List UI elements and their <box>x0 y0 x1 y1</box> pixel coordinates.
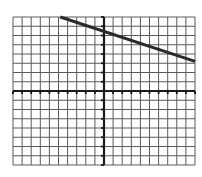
coordinate-plane <box>0 0 202 177</box>
plotted-line <box>60 17 195 61</box>
data-line <box>60 17 195 61</box>
